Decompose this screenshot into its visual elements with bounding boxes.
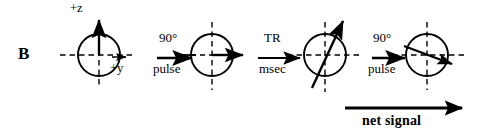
transition-1-label-line2: pulse (153, 62, 180, 75)
state-2-group (176, 22, 243, 90)
transition-2-label-line1: TR (264, 31, 281, 44)
y-axis-label: +y (110, 62, 123, 75)
figure-panel-b: B +z +y 90° pulse TR msec 90° pulse net … (0, 0, 480, 138)
z-axis-label: +z (70, 2, 83, 15)
transition-3-label-line2: pulse (368, 62, 395, 75)
state-3-group (287, 21, 360, 92)
transition-3-label-line1: 90° (373, 31, 391, 44)
panel-letter-b: B (18, 45, 30, 62)
state-1-group (60, 20, 136, 88)
net-signal-label: net signal (362, 114, 421, 128)
state-4-group (392, 22, 466, 90)
transition-2-label-line2: msec (259, 62, 286, 75)
transition-1-label-line1: 90° (159, 31, 177, 44)
